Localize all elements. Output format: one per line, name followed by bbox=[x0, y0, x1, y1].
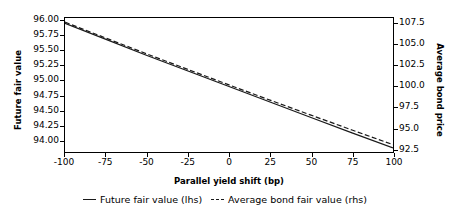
x-tick-label: -100 bbox=[44, 157, 84, 167]
chart-legend: Future fair value (lhs)Average bond fair… bbox=[0, 194, 450, 205]
y-right-tick-label: 92.5 bbox=[399, 144, 439, 154]
y-axis-right-title: Average bond price bbox=[435, 40, 445, 140]
legend-entry[interactable]: Average bond fair value (rhs) bbox=[211, 194, 367, 205]
legend-label: Average bond fair value (rhs) bbox=[228, 194, 367, 205]
y-right-tick-mark bbox=[394, 65, 398, 66]
y-right-tick-label: 95.0 bbox=[399, 123, 439, 133]
plot-area bbox=[64, 17, 394, 153]
y-right-tick-mark bbox=[394, 86, 398, 87]
y-left-tick-mark bbox=[60, 141, 64, 142]
y-left-tick-mark bbox=[60, 96, 64, 97]
line-future-fair-value bbox=[65, 23, 393, 147]
x-tick-label: 75 bbox=[333, 157, 373, 167]
x-tick-label: 25 bbox=[250, 157, 290, 167]
y-right-tick-mark bbox=[394, 44, 398, 45]
y-left-tick-mark bbox=[60, 80, 64, 81]
series-lines bbox=[65, 22, 393, 148]
legend-line-swatch-solid bbox=[83, 199, 96, 200]
x-tick-label: 100 bbox=[374, 157, 414, 167]
y-left-tick-mark bbox=[60, 35, 64, 36]
line-average-bond-fair-value bbox=[65, 22, 393, 145]
plot-svg bbox=[65, 18, 393, 152]
y-right-tick-mark bbox=[394, 129, 398, 130]
y-left-tick-mark bbox=[60, 65, 64, 66]
chart-figure: 96.0095.7595.5095.2595.0094.7594.5094.25… bbox=[0, 0, 450, 219]
x-axis-title: Parallel yield shift (bp) bbox=[64, 176, 394, 186]
y-left-tick-label: 95.75 bbox=[13, 29, 59, 39]
y-axis-left-title: Future fair value bbox=[13, 40, 23, 140]
y-left-tick-mark bbox=[60, 50, 64, 51]
y-left-tick-mark bbox=[60, 126, 64, 127]
x-tick-label: -25 bbox=[168, 157, 208, 167]
y-right-tick-label: 100.0 bbox=[399, 80, 439, 90]
y-right-tick-label: 105.0 bbox=[399, 38, 439, 48]
x-tick-label: 0 bbox=[209, 157, 249, 167]
y-left-tick-mark bbox=[60, 20, 64, 21]
y-left-tick-mark bbox=[60, 111, 64, 112]
legend-label: Future fair value (lhs) bbox=[100, 194, 202, 205]
legend-line-swatch-dashed bbox=[211, 199, 224, 200]
y-right-tick-label: 102.5 bbox=[399, 59, 439, 69]
y-right-tick-label: 107.5 bbox=[399, 17, 439, 27]
y-right-tick-label: 97.5 bbox=[399, 101, 439, 111]
y-left-tick-label: 96.00 bbox=[13, 14, 59, 24]
y-right-tick-mark bbox=[394, 150, 398, 151]
x-tick-label: -75 bbox=[85, 157, 125, 167]
x-tick-label: 50 bbox=[292, 157, 332, 167]
x-tick-label: -50 bbox=[127, 157, 167, 167]
y-right-tick-mark bbox=[394, 107, 398, 108]
legend-entry[interactable]: Future fair value (lhs) bbox=[83, 194, 202, 205]
y-right-tick-mark bbox=[394, 23, 398, 24]
